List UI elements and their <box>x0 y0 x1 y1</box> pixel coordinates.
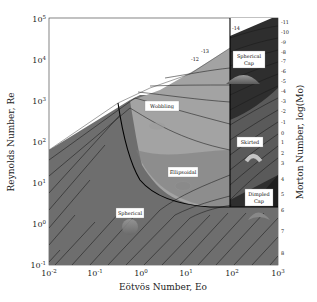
ellipsoidal-bubble-icon <box>175 182 191 191</box>
svg-text:Skirted: Skirted <box>241 139 260 145</box>
y-axis-label: Reynolds Number, Re <box>6 93 16 192</box>
label-dimpled-cap: Dimpled Cap <box>245 189 273 206</box>
svg-text:-3: -3 <box>281 98 286 104</box>
svg-text:104: 104 <box>32 55 46 65</box>
label-skirted: Skirted <box>237 137 263 147</box>
svg-text:-7: -7 <box>281 58 286 64</box>
svg-text:Wobbling: Wobbling <box>150 103 175 110</box>
y2-axis-label: Morton Number, log(Mo) <box>295 85 305 200</box>
svg-text:Dimpled: Dimpled <box>248 191 270 198</box>
svg-text:-11: -11 <box>281 19 289 25</box>
contour-label-14: -14 <box>232 25 240 31</box>
svg-text:Cap: Cap <box>254 198 264 205</box>
svg-text:102: 102 <box>225 268 239 278</box>
svg-text:10-1: 10-1 <box>87 268 103 278</box>
svg-text:5: 5 <box>281 191 284 197</box>
svg-text:-2: -2 <box>281 108 286 114</box>
wobbling-bubble-icon <box>149 123 165 130</box>
svg-text:6: 6 <box>281 207 284 213</box>
regime-map-chart: -14 -13 -12 Wobbling Spherical Cap Skirt… <box>0 0 317 302</box>
svg-text:102: 102 <box>32 137 46 147</box>
label-spherical: Spherical <box>116 208 144 218</box>
svg-text:Spherical: Spherical <box>237 53 262 60</box>
svg-text:7: 7 <box>281 228 284 234</box>
morton-ticks: -11 -10 -9 -8 -7 -6 -5 -4 -3 -2 -1 0 1 2… <box>281 19 289 256</box>
svg-text:1: 1 <box>281 139 284 145</box>
svg-text:100: 100 <box>32 219 46 229</box>
svg-text:-10: -10 <box>281 29 289 35</box>
contour-label-12: -12 <box>191 56 199 62</box>
svg-text:103: 103 <box>32 96 46 106</box>
svg-text:-8: -8 <box>281 49 286 55</box>
x-axis-label: Eötvös Number, Eo <box>119 282 207 292</box>
svg-text:100: 100 <box>134 268 148 278</box>
label-ellipsoidal: Ellipsoidal <box>168 167 198 177</box>
label-spherical-cap: Spherical Cap <box>233 51 265 68</box>
spherical-bubble-icon <box>122 219 138 235</box>
y-axis-ticks: 105 104 103 102 101 100 10-1 <box>30 14 46 270</box>
svg-text:3: 3 <box>281 160 284 166</box>
contour-label-13: -13 <box>201 48 209 54</box>
x-axis-ticks: 10-2 10-1 100 101 102 103 <box>41 268 285 278</box>
label-wobbling: Wobbling <box>145 101 179 111</box>
svg-text:101: 101 <box>32 178 46 188</box>
svg-text:-9: -9 <box>281 39 286 45</box>
svg-text:-4: -4 <box>281 88 286 94</box>
svg-text:103: 103 <box>271 268 285 278</box>
svg-text:101: 101 <box>179 268 193 278</box>
svg-text:10-2: 10-2 <box>41 268 57 278</box>
svg-text:Cap: Cap <box>244 60 254 67</box>
svg-text:-1: -1 <box>281 119 286 125</box>
svg-text:8: 8 <box>281 250 284 256</box>
svg-text:-6: -6 <box>281 68 286 74</box>
svg-text:4: 4 <box>281 176 284 182</box>
svg-text:0: 0 <box>281 130 284 136</box>
svg-text:Spherical: Spherical <box>118 210 143 217</box>
svg-text:Ellipsoidal: Ellipsoidal <box>170 169 197 176</box>
svg-text:-5: -5 <box>281 78 286 84</box>
svg-text:2: 2 <box>281 150 284 156</box>
svg-text:105: 105 <box>32 14 46 24</box>
